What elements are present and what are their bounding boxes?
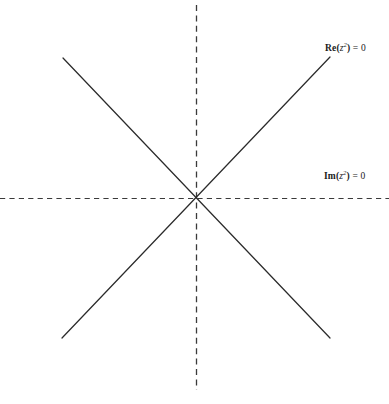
plot-canvas [0, 0, 389, 404]
re-label-function: Re( [325, 43, 340, 53]
im-label-equals: = 0 [350, 171, 365, 181]
re-axis-label: Re(z2) = 0 [325, 44, 366, 54]
im-axis-label: Im(z2) = 0 [324, 172, 365, 182]
im-label-function: Im( [324, 171, 339, 181]
figure-background [0, 0, 389, 404]
complex-plane-figure: Re(z2) = 0 Im(z2) = 0 [0, 0, 389, 404]
re-label-equals: = 0 [350, 43, 365, 53]
